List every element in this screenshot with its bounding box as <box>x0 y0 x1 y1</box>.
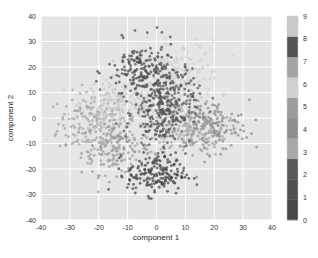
colorbar-tick-label: 8 <box>303 35 307 42</box>
x-tick-label: 30 <box>239 224 247 231</box>
colorbar: 0123456789 <box>287 13 307 224</box>
y-tick-label: 20 <box>28 64 36 71</box>
x-tick-label: 20 <box>210 224 218 231</box>
y-tick-label: -10 <box>26 140 36 147</box>
y-tick-label: -30 <box>26 191 36 198</box>
colorbar-tick-label: 5 <box>303 103 307 110</box>
colorbar-tick-label: 0 <box>303 217 307 224</box>
y-tick-label: 10 <box>28 89 36 96</box>
x-axis-ticks: -40-30-20-10010203040 <box>36 224 276 231</box>
x-tick-label: 40 <box>268 224 276 231</box>
y-tick-label: 0 <box>32 115 36 122</box>
x-tick-label: 0 <box>155 224 159 231</box>
colorbar-tick-label: 7 <box>303 58 307 65</box>
y-tick-label: 40 <box>28 13 36 20</box>
colorbar-tick-label: 3 <box>303 149 307 156</box>
y-tick-label: -40 <box>26 217 36 224</box>
colorbar-tick-label: 6 <box>303 81 307 88</box>
colorbar-tick-label: 2 <box>303 171 307 178</box>
x-tick-label: -20 <box>94 224 104 231</box>
y-axis-ticks: -40-30-20-10010203040 <box>26 13 36 224</box>
scatter-chart: -40-30-20-10010203040 -40-30-20-10010203… <box>0 0 318 258</box>
y-tick-label: -20 <box>26 166 36 173</box>
x-axis-label: component 1 <box>133 233 180 242</box>
y-axis-label: component 2 <box>6 94 15 141</box>
colorbar-tick-label: 1 <box>303 194 307 201</box>
x-tick-label: -30 <box>65 224 75 231</box>
x-tick-label: -10 <box>123 224 133 231</box>
x-tick-label: 10 <box>181 224 189 231</box>
colorbar-tick-label: 9 <box>303 13 307 20</box>
x-tick-label: -40 <box>36 224 46 231</box>
y-tick-label: 30 <box>28 38 36 45</box>
colorbar-tick-label: 4 <box>303 126 307 133</box>
